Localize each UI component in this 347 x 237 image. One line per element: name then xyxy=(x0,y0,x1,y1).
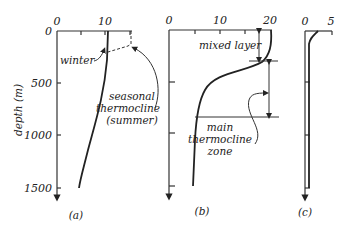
c-x-tick-5: 5 xyxy=(328,15,335,28)
a-seasonal-line1: seasonal xyxy=(109,90,155,102)
y-tick-1500: 1500 xyxy=(24,182,52,195)
b-x-tick-20: 20 xyxy=(262,14,277,27)
b-x-tick-0: 0 xyxy=(166,14,173,27)
c-profile-curve xyxy=(309,31,318,188)
b-main-line1: main xyxy=(207,121,234,133)
panel-c: 0 5 (c) xyxy=(298,15,335,218)
y-tick-500: 500 xyxy=(31,77,52,90)
panel-a: 0 500 1000 1500 depth (m) 0 10 winter se… xyxy=(12,15,160,221)
y-axis-label: depth (m) xyxy=(12,84,24,136)
a-x-tick-0: 0 xyxy=(54,15,61,28)
b-temperature-curve xyxy=(193,30,271,186)
a-winter-label: winter xyxy=(60,54,96,66)
y-tick-1000: 1000 xyxy=(24,129,52,142)
y-tick-0: 0 xyxy=(45,25,52,38)
thermocline-diagram: 0 500 1000 1500 depth (m) 0 10 winter se… xyxy=(0,0,347,237)
a-seasonal-line3: (summer) xyxy=(106,114,158,126)
a-seasonal-line2: thermocline xyxy=(96,102,160,114)
panel-b: 0 10 20 mixed layer main thermocline zon… xyxy=(166,14,280,217)
a-x-tick-10: 10 xyxy=(98,15,112,28)
b-x-tick-10: 10 xyxy=(213,14,227,27)
c-x-tick-0: 0 xyxy=(302,15,309,28)
b-main-line3: zone xyxy=(207,145,233,157)
b-main-line2: thermocline xyxy=(188,133,252,145)
b-caption: (b) xyxy=(195,205,210,217)
b-mixed-layer-label: mixed layer xyxy=(199,39,262,51)
a-summer-dashed-curve xyxy=(108,31,131,52)
c-caption: (c) xyxy=(298,206,312,218)
a-caption: (a) xyxy=(69,209,83,221)
